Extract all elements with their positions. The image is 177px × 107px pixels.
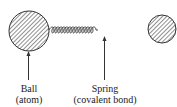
ball-label-line1: Ball [12,83,46,94]
ball-label-line2: (atom) [12,94,46,105]
spring-label-line1: Spring [68,83,142,94]
spring-label: Spring (covalent bond) [68,83,142,105]
spring-arrow [103,36,107,80]
small-ball-atom [148,15,176,43]
ball-label: Ball (atom) [12,83,46,105]
spring-bond [49,27,98,33]
large-ball-atom [9,11,49,51]
spring-label-line2: (covalent bond) [68,94,142,105]
ball-arrow [27,51,31,80]
